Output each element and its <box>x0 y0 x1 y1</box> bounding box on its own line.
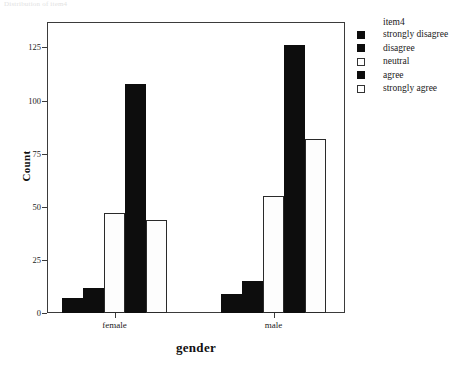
legend-item-label: neutral <box>383 56 409 67</box>
legend-title: item4 <box>383 16 463 28</box>
legend-swatch-icon <box>357 85 365 93</box>
legend-item: strongly agree <box>357 82 463 96</box>
legend-item-label: strongly disagree <box>383 29 448 40</box>
legend-item-label: disagree <box>383 43 415 54</box>
plot-area <box>47 22 345 313</box>
legend-item: disagree <box>357 42 463 56</box>
figure-caption: Distribution of item4 <box>4 0 67 8</box>
legend-item: neutral <box>357 55 463 69</box>
legend-swatch-icon <box>357 31 365 39</box>
legend-swatch-icon <box>357 44 365 52</box>
legend-swatch-icon <box>357 71 365 79</box>
y-axis-tick-label: 50 <box>33 203 42 212</box>
legend-item-label: agree <box>383 70 404 81</box>
x-axis-tick <box>115 313 116 318</box>
x-axis-tick-label: female <box>75 320 155 330</box>
y-axis-tick-label: 0 <box>37 309 41 318</box>
legend-item-label: strongly agree <box>383 83 437 94</box>
legend-item: strongly disagree <box>357 28 463 42</box>
legend: item4 strongly disagreedisagreeneutralag… <box>357 16 463 96</box>
y-axis-tick <box>42 313 47 314</box>
y-axis-tick-label: 100 <box>28 97 41 106</box>
legend-swatch-icon <box>357 58 365 66</box>
chart-canvas: Distribution of item4 Count 025507510012… <box>0 0 465 372</box>
legend-item: agree <box>357 69 463 83</box>
x-axis-title: gender <box>47 340 345 356</box>
y-axis-tick-label: 125 <box>28 43 41 52</box>
y-axis-tick-label: 25 <box>33 256 42 265</box>
y-axis-title: Count <box>20 126 32 206</box>
x-axis-tick <box>274 313 275 318</box>
y-axis-tick-label: 75 <box>33 150 42 159</box>
x-axis-tick-label: male <box>234 320 314 330</box>
